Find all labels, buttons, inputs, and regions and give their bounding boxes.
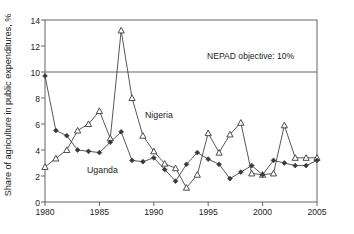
series-nigeria	[42, 27, 320, 190]
data-point	[75, 127, 81, 133]
data-point	[96, 108, 102, 114]
data-point	[238, 120, 244, 126]
data-point	[205, 130, 211, 136]
data-point	[151, 148, 157, 154]
data-point	[206, 157, 211, 162]
data-point	[42, 164, 48, 170]
data-point	[282, 161, 287, 166]
data-point	[43, 74, 48, 79]
series-line-nigeria	[45, 30, 317, 187]
data-point	[53, 128, 58, 133]
series-line-uganda	[45, 76, 317, 181]
data-point	[172, 165, 178, 171]
data-point	[238, 170, 243, 175]
data-point	[270, 170, 276, 176]
plot-area	[0, 0, 354, 234]
data-point	[141, 159, 146, 164]
data-point	[216, 150, 222, 156]
data-point	[140, 133, 146, 139]
data-point	[53, 155, 59, 161]
data-point	[129, 95, 135, 101]
data-point	[249, 170, 255, 176]
data-point	[130, 158, 135, 163]
data-point	[281, 122, 287, 128]
data-point	[118, 27, 124, 33]
data-point	[86, 149, 91, 154]
data-point	[304, 163, 309, 168]
data-point	[64, 147, 70, 153]
data-point	[293, 163, 298, 168]
series-uganda	[43, 74, 320, 184]
chart-container: Share of agriculture in public expenditu…	[0, 0, 354, 234]
data-point	[194, 172, 200, 178]
